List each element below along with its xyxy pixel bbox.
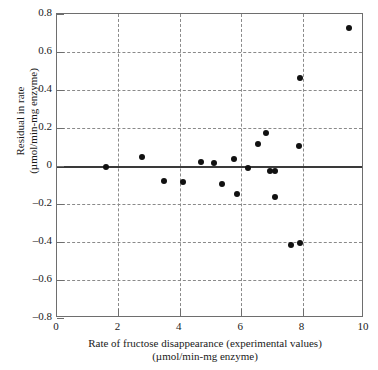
x-axis-title-line-2: (µmol/min-mg enzyme) bbox=[40, 350, 370, 363]
residual-scatter-chart: Residual in rate (µmol/min-mg enzyme) 0.… bbox=[0, 0, 378, 370]
y-axis-tick-label: –0.6 bbox=[4, 273, 52, 284]
y-axis-tick-label: 0.4 bbox=[4, 83, 52, 94]
gridline-vertical bbox=[241, 14, 242, 316]
data-point bbox=[272, 194, 278, 200]
y-axis-tick bbox=[57, 204, 64, 205]
gridline-vertical bbox=[303, 14, 304, 316]
data-point bbox=[198, 159, 204, 165]
x-axis-tick-label: 6 bbox=[220, 320, 260, 332]
y-axis-tick-label: 0.6 bbox=[4, 45, 52, 56]
gridline-horizontal bbox=[57, 280, 362, 281]
x-axis-tick-label: 0 bbox=[36, 320, 76, 332]
data-point bbox=[272, 168, 278, 174]
x-axis-tick-label: 8 bbox=[282, 320, 322, 332]
gridline-horizontal bbox=[57, 204, 362, 205]
gridline-vertical bbox=[118, 14, 119, 316]
x-axis-tick bbox=[303, 309, 304, 316]
y-axis-tick bbox=[57, 318, 64, 319]
data-point bbox=[297, 75, 303, 81]
data-point bbox=[103, 164, 109, 170]
y-axis-tick bbox=[57, 128, 64, 129]
x-axis-title-line-1: Rate of fructose disappearance (experime… bbox=[40, 337, 370, 350]
data-point bbox=[161, 178, 167, 184]
y-axis-tick bbox=[57, 90, 64, 91]
y-axis-tick bbox=[57, 166, 64, 167]
gridline-horizontal bbox=[57, 52, 362, 53]
y-axis-tick bbox=[57, 14, 64, 15]
plot-area bbox=[56, 13, 363, 317]
data-point bbox=[245, 165, 251, 171]
y-axis-tick bbox=[57, 242, 64, 243]
data-point bbox=[288, 242, 294, 248]
y-axis-tick-label: 0.8 bbox=[4, 7, 52, 18]
gridline-horizontal bbox=[57, 90, 362, 91]
y-axis-tick bbox=[57, 52, 64, 53]
gridline-horizontal bbox=[57, 242, 362, 243]
data-point bbox=[139, 154, 145, 160]
x-axis-tick bbox=[241, 309, 242, 316]
gridline-horizontal bbox=[57, 128, 362, 129]
y-axis-tick-label: –0.4 bbox=[4, 235, 52, 246]
data-point bbox=[296, 143, 302, 149]
data-point bbox=[263, 130, 269, 136]
y-axis-tick-labels: 0.80.60.40.20–0.2–0.4–0.6–0.8 bbox=[0, 13, 52, 317]
x-axis-tick-label: 10 bbox=[343, 320, 378, 332]
data-point bbox=[234, 191, 240, 197]
data-point bbox=[180, 179, 186, 185]
data-point bbox=[219, 181, 225, 187]
data-point bbox=[231, 156, 237, 162]
x-axis-title: Rate of fructose disappearance (experime… bbox=[40, 337, 370, 363]
y-axis-tick-label: –0.2 bbox=[4, 197, 52, 208]
y-axis-tick-label: 0 bbox=[4, 159, 52, 170]
y-axis-tick-label: 0.2 bbox=[4, 121, 52, 132]
y-axis-tick bbox=[57, 280, 64, 281]
x-axis-tick-labels: 0246810 bbox=[56, 320, 363, 336]
x-axis-tick-label: 2 bbox=[97, 320, 137, 332]
x-axis-tick-label: 4 bbox=[159, 320, 199, 332]
x-axis-tick bbox=[118, 309, 119, 316]
gridline-vertical bbox=[180, 14, 181, 316]
data-point bbox=[297, 240, 303, 246]
x-axis-tick bbox=[180, 309, 181, 316]
data-point bbox=[346, 25, 352, 31]
data-point bbox=[211, 160, 217, 166]
data-point bbox=[255, 141, 261, 147]
